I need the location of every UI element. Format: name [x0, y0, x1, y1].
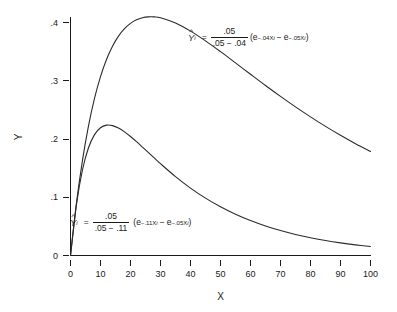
- y-tick-marks: [63, 23, 69, 256]
- formula-upper-term2-exp: −.05X: [288, 35, 304, 41]
- formula-upper-close-paren: ): [306, 33, 309, 42]
- formula-upper-term1-exp-sub: i: [273, 35, 274, 41]
- y-tick-labels: 0 .1 .2 .3 .4: [50, 18, 58, 261]
- x-tick-label-30: 30: [155, 269, 165, 279]
- x-tick-label-100: 100: [363, 269, 378, 279]
- y-tick-label-1: .1: [50, 192, 58, 202]
- formula-upper-equals: =: [202, 33, 207, 42]
- formula-lower-equals: =: [84, 218, 89, 227]
- x-tick-labels: 0 10 20 30 40 50 60 70 80 90 100: [68, 269, 378, 279]
- x-tick-label-80: 80: [305, 269, 315, 279]
- hat-accent-lower: ^: [71, 213, 75, 221]
- formula-lower-term2-exp: −.05X: [171, 220, 187, 226]
- y-tick-label-0: 0: [53, 251, 58, 261]
- annotation-formula-lower: ^Yi = .05 .05 − .11 (e−.11Xi−e−.05Xi): [70, 212, 191, 233]
- x-tick-label-40: 40: [185, 269, 195, 279]
- x-tick-label-50: 50: [215, 269, 225, 279]
- formula-upper-fraction: .05 .05 − .04: [211, 27, 248, 48]
- formula-upper-term1-exp: −.04X: [258, 35, 274, 41]
- y-axis-title: Y: [13, 133, 24, 140]
- formula-upper-lhs: ^Yi: [188, 33, 196, 43]
- figure-container: 0 .1 .2 .3 .4 0 10 20 30 40 50 60 70 80 …: [0, 0, 397, 312]
- formula-upper-expression: (e−.04Xi−e−.05Xi): [250, 33, 309, 42]
- formula-lower-expression: (e−.11Xi−e−.05Xi): [133, 218, 191, 227]
- formula-upper-y-sub: i: [194, 35, 195, 41]
- formula-lower-fraction: .05 .05 − .11: [93, 212, 130, 233]
- x-tick-label-60: 60: [245, 269, 255, 279]
- formula-upper-minus: −: [277, 33, 282, 42]
- formula-lower-term1-exp-sub: i: [156, 220, 157, 226]
- formula-lower-y-sub: i: [76, 220, 77, 226]
- formula-lower-numerator: .05: [103, 212, 119, 222]
- x-tick-label-20: 20: [125, 269, 135, 279]
- x-tick-label-0: 0: [68, 269, 73, 279]
- series-line-lower-curve: [71, 125, 371, 256]
- formula-lower-denominator: .05 − .11: [93, 224, 130, 234]
- y-tick-label-2: .2: [50, 134, 58, 144]
- formula-lower-term1-exp: −.11X: [141, 220, 156, 226]
- formula-lower-lhs: ^Yi: [70, 218, 78, 228]
- annotation-formula-upper: ^Yi = .05 .05 − .04 (e−.04Xi−e−.05Xi): [188, 27, 309, 48]
- x-tick-label-70: 70: [275, 269, 285, 279]
- formula-upper-numerator: .05: [221, 27, 237, 37]
- y-tick-label-3: .3: [50, 76, 58, 86]
- x-tick-label-10: 10: [95, 269, 105, 279]
- hat-accent-upper: ^: [189, 28, 193, 36]
- formula-lower-minus: −: [160, 218, 165, 227]
- y-tick-label-4: .4: [50, 18, 58, 28]
- x-axis-title: X: [217, 291, 224, 302]
- x-tick-label-90: 90: [335, 269, 345, 279]
- formula-upper-denominator: .05 − .04: [211, 39, 248, 49]
- formula-lower-close-paren: ): [189, 218, 192, 227]
- x-tick-marks: [71, 260, 371, 266]
